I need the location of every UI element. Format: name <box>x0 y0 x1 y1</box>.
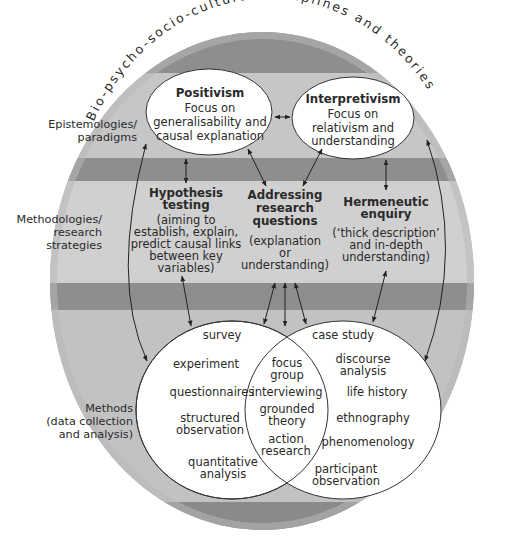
interpretivism-line-2: relativism and <box>312 121 394 135</box>
label-methodologies-1: Methodologies/ <box>17 213 103 226</box>
addressing-line-3: understanding) <box>241 258 329 272</box>
positivism-line-3: causal explanation <box>156 129 264 143</box>
method-quantitative-analysis-2: analysis <box>200 467 247 481</box>
method-questionnaires: questionnaires <box>170 385 255 399</box>
method-life-history: life history <box>347 385 408 399</box>
method-case-study: case study <box>312 328 374 342</box>
label-methodologies-3: strategies <box>46 239 102 252</box>
addressing-title-1: Addressing <box>248 188 323 202</box>
method-discourse-2: analysis <box>340 364 387 378</box>
positivism-line-2: generalisability and <box>153 115 266 129</box>
positivism-line-1: Focus on <box>185 101 236 115</box>
label-methods-2: (data collection <box>46 415 133 428</box>
method-focus-group-2: group <box>270 368 303 382</box>
method-survey: survey <box>203 328 242 342</box>
band-bottom-dark <box>0 502 513 542</box>
hermeneutic-line-3: understanding) <box>342 250 430 264</box>
method-phenomenology: phenomenology <box>322 435 415 449</box>
label-methods-1: Methods <box>85 402 133 415</box>
method-ethnography: ethnography <box>336 411 410 425</box>
research-paradigm-diagram: Bio-psycho-socio-cultural disciplines an… <box>0 0 513 556</box>
label-methods-3: and analysis) <box>59 428 133 441</box>
method-experiment: experiment <box>173 357 240 371</box>
hermeneutic-enquiry-box: Hermeneutic enquiry (‘thick description’… <box>332 195 439 264</box>
label-epistemologies-1: Epistemologies/ <box>48 118 137 131</box>
interpretivism-line-3: understanding <box>311 134 395 148</box>
addressing-title-2: research <box>256 201 314 215</box>
interpretivism-line-1: Focus on <box>328 107 379 121</box>
addressing-title-3: questions <box>252 214 317 228</box>
hypothesis-title-2: testing <box>162 198 209 212</box>
method-structured-2: observation <box>176 423 244 437</box>
method-action-research-2: research <box>261 444 311 458</box>
hypothesis-line-5: variables) <box>158 261 215 275</box>
label-epistemologies-2: paradigms <box>78 131 138 144</box>
method-participant-2: observation <box>312 474 380 488</box>
hermeneutic-title-2: enquiry <box>361 207 412 221</box>
band-divider-2 <box>0 283 513 310</box>
method-grounded-theory-2: theory <box>268 414 306 428</box>
positivism-title: Positivism <box>176 86 245 100</box>
method-interviewing: interviewing <box>251 385 322 399</box>
label-methodologies-2: research <box>54 226 102 239</box>
interpretivism-title: Interpretivism <box>305 92 400 106</box>
